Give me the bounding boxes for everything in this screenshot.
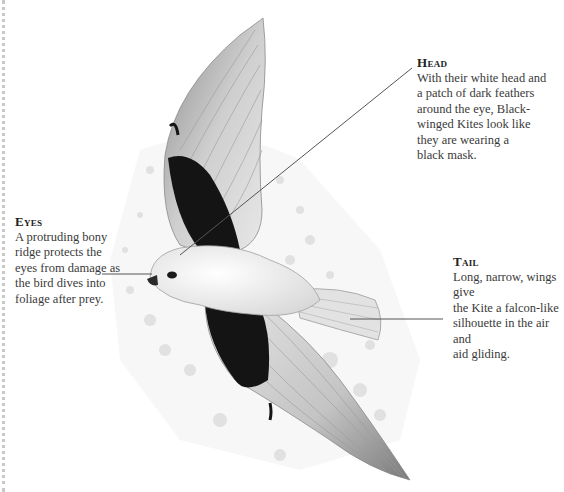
- callout-tail: Tail Long, narrow, wings give the Kite a…: [453, 254, 564, 363]
- callout-eyes-body: A protruding bony ridge protects the eye…: [15, 230, 150, 308]
- callout-eyes-title: Eyes: [15, 214, 150, 230]
- upper-wing: [164, 18, 265, 255]
- callout-eyes: Eyes A protruding bony ridge protects th…: [15, 214, 150, 307]
- callout-head: Head With their white head and a patch o…: [417, 55, 564, 164]
- callout-tail-body: Long, narrow, wings give the Kite a falc…: [453, 270, 564, 363]
- callout-head-title: Head: [417, 55, 564, 71]
- eye: [167, 272, 177, 279]
- callout-tail-title: Tail: [453, 254, 564, 270]
- callout-head-body: With their white head and a patch of dar…: [417, 71, 564, 164]
